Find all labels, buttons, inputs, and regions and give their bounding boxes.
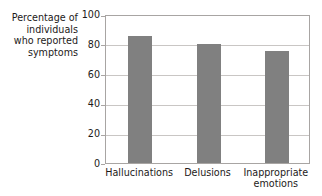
y-tick-label-60: 60 <box>76 70 100 80</box>
bar-chart-figure: Percentage of individuals who reported s… <box>0 0 322 196</box>
y-axis-tick-labels: 100806040200 <box>74 15 100 164</box>
y-axis-title-line-1: Percentage of <box>0 12 78 24</box>
y-tick-mark-40 <box>101 105 105 106</box>
bar-hallucinations <box>128 36 152 163</box>
y-tick-mark-60 <box>101 75 105 76</box>
bar-delusions <box>197 44 221 163</box>
y-axis-title-line-4: symptoms <box>0 47 78 59</box>
y-tick-label-20: 20 <box>76 129 100 139</box>
y-tick-label-100: 100 <box>76 10 100 20</box>
cropped-text-artifact <box>0 0 322 7</box>
y-tick-label-40: 40 <box>76 99 100 109</box>
y-tick-mark-20 <box>101 135 105 136</box>
x-tick-label-line: emotions <box>228 178 322 189</box>
y-axis-title-line-3: who reported <box>0 35 78 47</box>
y-tick-mark-100 <box>101 16 105 17</box>
plot-area <box>105 15 310 164</box>
x-tick-label-line: Inappropriate <box>228 167 322 178</box>
x-tick-label-inappropriate-emotions: Inappropriateemotions <box>228 167 322 190</box>
y-tick-mark-0 <box>101 164 105 165</box>
y-axis-title: Percentage of individuals who reported s… <box>0 12 78 58</box>
y-tick-label-80: 80 <box>76 40 100 50</box>
x-axis-tick-labels: HallucinationsDelusionsInappropriateemot… <box>105 167 310 196</box>
y-axis-title-line-2: individuals <box>0 24 78 36</box>
bar-inappropriate-emotions <box>265 51 289 163</box>
y-tick-mark-80 <box>101 45 105 46</box>
